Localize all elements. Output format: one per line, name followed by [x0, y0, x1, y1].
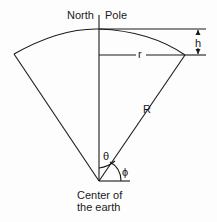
label-pole: Pole: [105, 10, 127, 21]
h-arrowhead-up: [196, 30, 201, 35]
left-radius: [14, 54, 99, 181]
phi-arc: [110, 162, 121, 181]
label-center-line2: the earth: [77, 202, 120, 213]
label-r: r: [138, 49, 142, 60]
label-h: h: [195, 38, 201, 49]
right-radius-R: [99, 55, 185, 181]
label-center-line1: Center of: [77, 190, 122, 201]
label-R: R: [143, 104, 151, 115]
h-arrowhead-down: [196, 49, 201, 54]
label-phi: ϕ: [122, 167, 128, 178]
earth-geometry-diagram: North Pole h r R θ ϕ Center of the earth: [0, 0, 217, 222]
label-theta: θ: [103, 151, 109, 162]
label-north: North: [67, 10, 94, 21]
